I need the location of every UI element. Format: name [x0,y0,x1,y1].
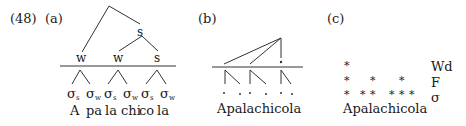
sigma-label: σs [141,87,153,102]
panel-b-word: Apalachicola [217,102,301,115]
syllable: pa [86,104,102,117]
sigma-label: σw [160,87,175,102]
grid-mark: * [370,75,376,86]
grid-mark: * [344,89,350,100]
foot-node-3: s [154,52,160,64]
grid-mark: * [344,60,350,71]
grid-mark: * [370,89,376,100]
grid-mark: * [344,75,350,86]
syllable: co [139,104,154,117]
syllable: la [105,104,117,117]
sigma-label: σw [123,87,138,102]
syllable: la [157,104,169,117]
tier-label-word: Wd [431,60,453,73]
panel-c-word: Apalachicola [343,102,427,115]
grid-mark: * [360,89,366,100]
sigma-label: σw [86,87,101,102]
foot-node-2: w [113,52,123,64]
tier-label-syllable: σ [431,91,440,104]
grid-mark: * [409,89,415,100]
grid-mark: * [399,89,405,100]
syllable: A [70,104,79,117]
sigma-label: σs [104,87,116,102]
grid-mark: * [389,89,395,100]
tier-label-foot: F [431,76,440,89]
grid-mark: * [399,75,405,86]
root-strong-node: s [137,26,143,38]
foot-node-1: w [76,52,86,64]
sigma-label: σs [67,87,79,102]
syllable: chi [121,104,141,117]
